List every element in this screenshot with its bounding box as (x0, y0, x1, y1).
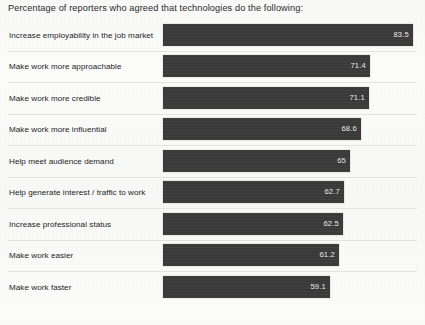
bar-fill: 65 (163, 150, 350, 172)
bar-rows-container: Increase employability in the job market… (0, 19, 425, 303)
bar-row: Increase professional status 62.5 (0, 208, 425, 240)
bar-chart-figure: Percentage of reporters who agreed that … (0, 0, 425, 325)
bar-track: 59.1 (163, 276, 417, 298)
row-divider (8, 19, 417, 20)
bar-category-label: Increase professional status (9, 219, 111, 228)
bar-track: 83.5 (163, 24, 417, 46)
bar-category-label: Make work more approachable (9, 62, 121, 71)
bar-fill: 62.5 (163, 213, 343, 235)
bar-row: Make work faster 59.1 (0, 271, 425, 303)
bar-row: Help meet audience demand 65 (0, 145, 425, 177)
bar-category-label: Make work more influential (9, 125, 107, 134)
row-divider (8, 240, 417, 241)
bar-row: Make work easier 61.2 (0, 240, 425, 272)
bar-track: 65 (163, 150, 417, 172)
bar-fill: 71.1 (163, 87, 369, 109)
bar-track: 61.2 (163, 244, 417, 266)
row-divider (8, 208, 417, 209)
chart-title: Percentage of reporters who agreed that … (8, 3, 303, 13)
bar-category-label: Help generate interest / traffic to work (9, 188, 145, 197)
bar-value-label: 65 (337, 157, 346, 165)
bar-category-label: Make work easier (9, 251, 73, 260)
bar-value-label: 71.4 (350, 62, 366, 70)
bar-fill: 62.7 (163, 181, 344, 203)
bar-category-label: Make work faster (9, 282, 71, 291)
bar-fill: 68.6 (163, 118, 361, 140)
bar-category-label: Increase employability in the job market (9, 30, 153, 39)
bar-value-label: 68.6 (341, 125, 357, 133)
bar-value-label: 61.2 (319, 251, 335, 259)
bar-row: Help generate interest / traffic to work… (0, 177, 425, 209)
bar-fill: 61.2 (163, 244, 339, 266)
bar-track: 62.5 (163, 213, 417, 235)
bar-category-label: Make work more credible (9, 93, 101, 102)
row-divider (8, 82, 417, 83)
bar-value-label: 83.5 (393, 31, 409, 39)
bar-row: Make work more credible 71.1 (0, 82, 425, 114)
bar-fill: 59.1 (163, 276, 330, 298)
bar-value-label: 59.1 (310, 283, 326, 291)
row-divider (8, 271, 417, 272)
row-divider (8, 51, 417, 52)
bar-fill: 83.5 (163, 24, 413, 46)
bar-fill: 71.4 (163, 55, 370, 77)
bar-category-label: Help meet audience demand (9, 156, 114, 165)
bar-track: 62.7 (163, 181, 417, 203)
row-divider (8, 177, 417, 178)
bar-track: 68.6 (163, 118, 417, 140)
bar-row: Make work more influential 68.6 (0, 114, 425, 146)
row-divider (8, 145, 417, 146)
bar-value-label: 71.1 (349, 94, 365, 102)
bar-value-label: 62.5 (323, 220, 339, 228)
bar-value-label: 62.7 (324, 188, 340, 196)
bar-track: 71.4 (163, 55, 417, 77)
bar-track: 71.1 (163, 87, 417, 109)
row-divider (8, 114, 417, 115)
bar-row: Make work more approachable 71.4 (0, 51, 425, 83)
bar-row: Increase employability in the job market… (0, 19, 425, 51)
